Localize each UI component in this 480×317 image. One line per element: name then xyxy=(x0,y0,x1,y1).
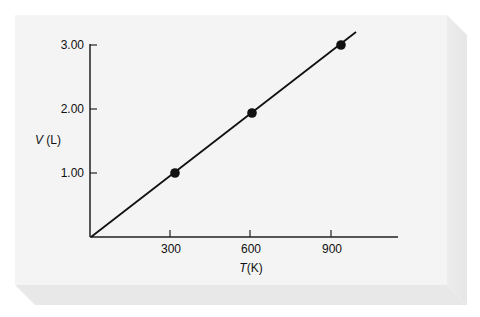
x-tick-label: 600 xyxy=(241,242,261,256)
y-axis-title-unit: (L) xyxy=(43,133,61,147)
data-point xyxy=(247,108,257,118)
x-tick-label: 300 xyxy=(161,242,181,256)
data-point xyxy=(336,40,346,50)
data-point xyxy=(170,168,180,178)
y-tick-label: 3.00 xyxy=(61,38,85,52)
x-tick-label: 900 xyxy=(322,242,342,256)
y-tick-label: 1.00 xyxy=(61,166,85,180)
x-axis-title-unit: (K) xyxy=(247,261,263,275)
chart-svg: 3.00 2.00 1.00 300 600 900 T(K) V (L) xyxy=(0,0,480,317)
best-fit-line xyxy=(91,32,356,237)
y-tick-label: 2.00 xyxy=(61,102,85,116)
y-axis-title: V (L) xyxy=(35,133,61,147)
x-axis-title: T(K) xyxy=(239,261,262,275)
